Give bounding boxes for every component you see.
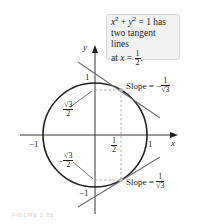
fraction-denominator: √3: [161, 86, 169, 94]
slope-fraction-upper: 1√3: [161, 77, 169, 94]
callout-at: at: [111, 53, 120, 63]
y-axis-arrow-icon: [92, 45, 98, 53]
y-axis-label: y: [83, 42, 87, 52]
figure-caption: FIGURE 2.36: [12, 212, 54, 218]
callout-period: .: [141, 53, 143, 63]
half-fraction: 12: [111, 137, 117, 154]
callout-plus: +: [118, 17, 128, 27]
x-axis-label: x: [171, 138, 175, 148]
fraction-denominator: 2: [63, 110, 73, 118]
y-tick-pos-one: 1: [85, 72, 90, 82]
tangent-point-upper: [119, 88, 123, 92]
callout-rest: = 1 has: [136, 17, 166, 27]
callout-line-2: two tangent lines: [111, 28, 175, 50]
fraction-denominator: 2: [63, 161, 73, 169]
x-tick-pos-one: 1: [148, 139, 153, 149]
x-tick-neg-one: −1: [29, 139, 39, 149]
leader-line-lower: [73, 162, 93, 179]
callout-line-3: at x = 12.: [111, 50, 175, 67]
tangent-point-lower: [119, 178, 123, 182]
fraction-denominator: √3: [156, 182, 164, 190]
y-tick-neg-one: −1: [79, 188, 89, 198]
slope-label-lower: Slope = 1√3: [126, 173, 164, 190]
slope-label-upper: Slope = −1√3: [126, 77, 170, 94]
callout-box: x2 + y2 = 1 has two tangent lines at x =…: [106, 14, 180, 60]
label-sqrt3-over-2: √32: [63, 101, 73, 118]
callout-eq: =: [124, 53, 134, 63]
sqrt3-over-2-fraction: √32: [63, 101, 73, 118]
slope-fraction-lower: 1√3: [156, 173, 164, 190]
slope-prefix-lower: Slope =: [126, 177, 156, 187]
callout-line-1: x2 + y2 = 1 has: [111, 17, 175, 28]
neg-sqrt3-over-2-fraction: √32: [63, 152, 73, 169]
fraction-denominator: 2: [111, 146, 117, 154]
x-tick-half: 12: [111, 137, 117, 154]
slope-prefix-upper: Slope = −: [126, 81, 161, 91]
label-neg-sqrt3-over-2: −√32: [58, 152, 73, 169]
